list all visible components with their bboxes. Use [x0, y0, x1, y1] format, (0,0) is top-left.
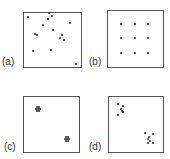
panel-b-box [107, 10, 164, 68]
panel-c-box [23, 96, 80, 153]
point-marker [69, 22, 71, 24]
point-marker [32, 50, 34, 52]
point-marker [134, 23, 136, 25]
point-marker [52, 29, 54, 31]
panel-c-label: (c) [4, 142, 16, 152]
point-marker [120, 52, 122, 54]
point-marker [117, 114, 119, 116]
panel-a-label: (a) [2, 57, 14, 67]
point-marker [149, 140, 151, 142]
point-marker [152, 142, 154, 144]
point-marker [75, 63, 77, 65]
point-marker [47, 18, 49, 20]
point-marker [51, 15, 53, 17]
point-marker [27, 16, 29, 18]
point-marker [122, 111, 124, 113]
panel-d-label: (d) [89, 142, 101, 152]
point-marker [36, 34, 38, 36]
point-marker [38, 110, 40, 112]
point-marker [61, 34, 63, 36]
point-marker [120, 23, 122, 25]
point-marker [50, 49, 52, 51]
panel-a-box [23, 12, 82, 68]
point-marker [134, 37, 136, 39]
point-marker [122, 105, 124, 107]
point-marker [120, 37, 122, 39]
point-marker [147, 37, 149, 39]
point-marker [59, 37, 61, 39]
point-marker [147, 52, 149, 54]
point-marker [117, 103, 119, 105]
point-marker [152, 133, 154, 135]
point-marker [63, 39, 65, 41]
point-marker [42, 24, 44, 26]
point-marker [144, 132, 146, 134]
point-marker [134, 52, 136, 54]
panel-b-label: (b) [89, 57, 101, 67]
point-marker [48, 12, 50, 14]
point-marker [67, 140, 69, 142]
point-marker [147, 23, 149, 25]
point-marker [147, 142, 149, 144]
